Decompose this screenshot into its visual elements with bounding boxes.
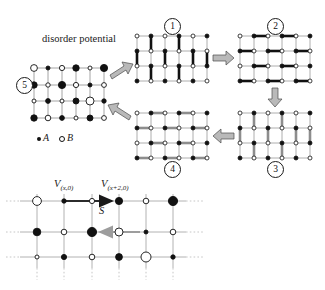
arrow-1-to-2 bbox=[213, 51, 234, 65]
panel-1-lattice bbox=[135, 34, 209, 83]
page-title: disorder potential bbox=[42, 33, 116, 44]
arrow-4-to-5 bbox=[108, 103, 131, 120]
arrow-2-to-3 bbox=[268, 88, 282, 107]
figure-root: disorder potential 5 1 2 3 4 A B V(x,0) … bbox=[0, 0, 325, 290]
panel-2-lattice bbox=[238, 34, 312, 83]
panel-number-2: 2 bbox=[267, 18, 284, 35]
potential-label-left: V(x,0) bbox=[54, 178, 73, 192]
bottom-lattice bbox=[6, 194, 205, 280]
legend: A B bbox=[37, 133, 73, 144]
footer-text bbox=[6, 279, 319, 286]
arrow-5-to-1 bbox=[110, 62, 133, 79]
panel-5-lattice bbox=[31, 64, 108, 121]
panel-number-4: 4 bbox=[164, 161, 181, 178]
panel-3-lattice bbox=[238, 111, 312, 160]
legend-open-circle-icon bbox=[59, 136, 65, 142]
legend-filled-circle-icon bbox=[37, 137, 41, 141]
legend-label-b: B bbox=[67, 132, 73, 143]
panel-number-3: 3 bbox=[267, 161, 284, 178]
legend-label-a: A bbox=[43, 132, 49, 143]
arrow-3-to-4 bbox=[213, 129, 234, 143]
panel-number-1: 1 bbox=[164, 18, 181, 35]
s-label: S bbox=[99, 205, 104, 216]
potential-label-right: V(x+2,0) bbox=[101, 178, 129, 192]
panel-4-lattice bbox=[135, 111, 209, 160]
panel-number-5: 5 bbox=[16, 77, 33, 94]
